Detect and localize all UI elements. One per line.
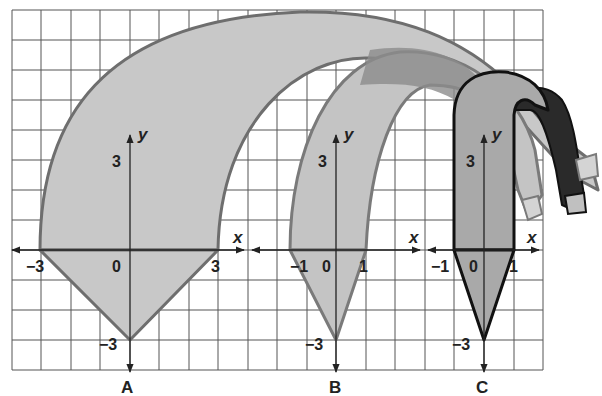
panel-c-label: C [476, 378, 488, 396]
panel-b-y-label: y [343, 125, 355, 144]
panel-a-label: A [121, 378, 133, 396]
panel-a-origin: 0 [112, 258, 121, 275]
transformation-diagram: y 3 x −3 0 3 −3 A y 3 x −1 0 1 −3 B y 3 … [0, 0, 602, 396]
panel-c-x-label: x [526, 228, 538, 247]
panel-a-y-label: y [137, 125, 149, 144]
panel-a-y-tick-neg3: −3 [99, 336, 117, 353]
ribbon-tip-b [522, 196, 542, 220]
panel-b-x-label: x [408, 228, 420, 247]
shape-a [40, 250, 218, 340]
panel-b-origin: 0 [322, 258, 331, 275]
panel-c-y-tick-neg3: −3 [452, 336, 470, 353]
panel-b-x-tick-1: 1 [359, 258, 368, 275]
panel-a-x-tick-neg3: −3 [26, 258, 44, 275]
panel-b-label: B [329, 378, 341, 396]
ribbon-tip-c [565, 193, 586, 214]
panel-c-x-tick-neg1: −1 [431, 258, 449, 275]
panel-a-x-tick-3: 3 [211, 258, 220, 275]
panel-a-y-tick-3: 3 [112, 153, 121, 170]
panel-b-y-tick-3: 3 [318, 153, 327, 170]
panel-b-y-tick-neg3: −3 [305, 336, 323, 353]
panel-c-y-tick-3: 3 [466, 153, 475, 170]
panel-b-x-tick-neg1: −1 [290, 258, 308, 275]
panel-c-x-tick-1: 1 [509, 258, 518, 275]
panel-a-x-label: x [232, 228, 244, 247]
panel-c-y-label: y [491, 125, 503, 144]
panel-c-origin: 0 [469, 258, 478, 275]
